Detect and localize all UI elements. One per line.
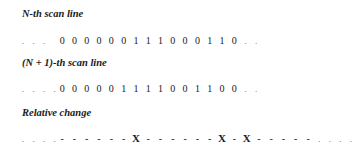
no-change-mark: - — [142, 133, 154, 144]
row-n1th-scan-line: . . . .000001111001100. . — [22, 83, 284, 94]
change-mark: X — [216, 132, 228, 144]
change-mark: X — [130, 132, 142, 144]
no-change-mark: - — [253, 133, 265, 144]
no-change-mark: - — [191, 133, 203, 144]
bit-cell: 0 — [68, 83, 80, 94]
no-change-mark: - — [105, 133, 117, 144]
bit-cell: 0 — [167, 83, 179, 94]
bit-cell: 0 — [228, 83, 240, 94]
bit-cell: 1 — [154, 35, 166, 46]
bit-cell: 1 — [216, 35, 228, 46]
no-change-mark: - — [204, 133, 216, 144]
no-change-mark: - — [68, 133, 80, 144]
no-change-mark: - — [302, 133, 314, 144]
bit-cell: 0 — [179, 35, 191, 46]
label-n1th-scan-line: (N + 1)-th scan line — [22, 57, 107, 68]
no-change-mark: - — [277, 133, 289, 144]
no-change-mark: - — [179, 133, 191, 144]
bit-cell: 1 — [117, 83, 129, 94]
label-nth-scan-line: N-th scan line — [22, 8, 83, 19]
bit-cell: 0 — [93, 83, 105, 94]
bit-cell: 0 — [216, 83, 228, 94]
bit-cell: 0 — [56, 35, 68, 46]
bit-cell: 0 — [68, 35, 80, 46]
bit-cell: 1 — [130, 83, 142, 94]
row-nth-scan-line: . . .000000111000110. . — [22, 35, 284, 46]
bit-cell: 1 — [130, 35, 142, 46]
bit-cell: 1 — [204, 83, 216, 94]
row-relative-change: . . . .------X------X-X-----. . . . — [22, 132, 356, 144]
change-mark: X — [240, 132, 252, 144]
bit-cell: 0 — [191, 35, 203, 46]
bit-cell: 1 — [204, 35, 216, 46]
bit-cell: 0 — [56, 83, 68, 94]
trailing-ellipsis: . . . . — [314, 134, 356, 144]
no-change-mark: - — [154, 133, 166, 144]
leading-ellipsis: . . . . — [22, 134, 56, 144]
no-change-mark: - — [167, 133, 179, 144]
no-change-mark: - — [265, 133, 277, 144]
no-change-mark: - — [290, 133, 302, 144]
bit-cell: 1 — [142, 83, 154, 94]
trailing-ellipsis: . . — [240, 36, 284, 46]
bit-cell: 0 — [105, 83, 117, 94]
bit-cell: 0 — [117, 35, 129, 46]
bit-cell: 0 — [81, 83, 93, 94]
bit-cell: 1 — [142, 35, 154, 46]
bit-cell: 0 — [167, 35, 179, 46]
bit-cell: 0 — [81, 35, 93, 46]
no-change-mark: - — [56, 133, 68, 144]
bit-cell: 0 — [93, 35, 105, 46]
label-relative-change: Relative change — [22, 107, 91, 118]
leading-ellipsis: . . . — [22, 36, 56, 46]
trailing-ellipsis: . . — [240, 84, 284, 94]
bit-cell: 1 — [154, 83, 166, 94]
leading-ellipsis: . . . . — [22, 84, 56, 94]
no-change-mark: - — [117, 133, 129, 144]
bit-cell: 0 — [105, 35, 117, 46]
no-change-mark: - — [81, 133, 93, 144]
no-change-mark: - — [228, 133, 240, 144]
no-change-mark: - — [93, 133, 105, 144]
bit-cell: 0 — [179, 83, 191, 94]
bit-cell: 0 — [228, 35, 240, 46]
bit-cell: 1 — [191, 83, 203, 94]
